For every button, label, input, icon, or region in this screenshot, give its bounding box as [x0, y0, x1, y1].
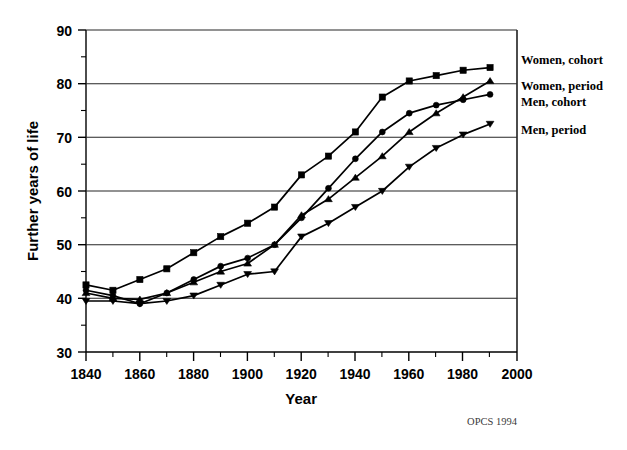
legend-item-men-cohort[interactable]: Men, cohort	[521, 95, 587, 109]
data-point	[191, 277, 197, 283]
y-tick-label-70: 70	[56, 130, 72, 146]
series-women-cohort	[83, 64, 493, 293]
data-point	[460, 67, 466, 73]
data-point	[325, 221, 333, 227]
chart-legend: Women, cohortWomen, periodMen, cohortMen…	[521, 53, 604, 137]
data-point	[406, 78, 412, 84]
data-point	[191, 250, 197, 256]
data-point	[298, 172, 304, 178]
chart-figure: 90 80 70 60 50 40 30	[0, 0, 627, 450]
data-point	[379, 129, 385, 135]
data-point	[271, 204, 277, 210]
series-line	[86, 94, 490, 303]
data-point	[325, 185, 331, 191]
data-series-layer	[82, 64, 494, 307]
series-line	[86, 68, 490, 291]
y-tick-label-90: 90	[56, 23, 72, 39]
y-tick-label-80: 80	[56, 76, 72, 92]
data-point	[487, 91, 493, 97]
data-point	[218, 234, 224, 240]
x-tick-label-1920: 1920	[286, 366, 317, 382]
x-axis-title: Year	[285, 390, 317, 407]
data-point	[486, 78, 494, 84]
data-point	[379, 94, 385, 100]
data-point	[137, 276, 143, 282]
legend-label: Men, cohort	[521, 95, 587, 109]
series-men-cohort	[83, 91, 493, 306]
y-axis-title: Further years of life	[24, 121, 41, 261]
data-point	[433, 73, 439, 79]
x-tick-label-1880: 1880	[178, 366, 209, 382]
data-point	[245, 220, 251, 226]
data-point	[460, 97, 466, 103]
legend-item-women-cohort[interactable]: Women, cohort	[521, 53, 604, 67]
data-point	[164, 290, 170, 296]
series-men-period	[82, 121, 494, 307]
data-point	[83, 287, 89, 293]
data-point	[245, 255, 251, 261]
data-point	[433, 102, 439, 108]
x-tick-label-1900: 1900	[232, 366, 263, 382]
legend-label: Men, period	[521, 123, 586, 137]
data-point	[299, 215, 305, 221]
data-point	[110, 293, 116, 299]
x-axis-ticks	[86, 352, 517, 361]
horizontal-gridlines	[86, 30, 517, 298]
x-tick-label-2000: 2000	[501, 366, 532, 382]
data-point	[406, 110, 412, 116]
data-point	[218, 263, 224, 269]
y-axis-ticks	[78, 30, 86, 352]
y-axis-tick-labels: 90 80 70 60 50 40 30	[56, 23, 72, 361]
y-tick-label-40: 40	[56, 291, 72, 307]
x-tick-label-1940: 1940	[339, 366, 370, 382]
legend-item-men-period[interactable]: Men, period	[521, 123, 586, 137]
data-point	[325, 153, 331, 159]
legend-item-women-period[interactable]: Women, period	[521, 79, 603, 93]
x-tick-label-1960: 1960	[393, 366, 424, 382]
data-point	[272, 242, 278, 248]
legend-label: Women, period	[521, 79, 603, 93]
life-expectancy-line-chart: 90 80 70 60 50 40 30	[0, 0, 627, 450]
data-point	[164, 266, 170, 272]
y-tick-label-30: 30	[56, 345, 72, 361]
x-tick-label-1980: 1980	[447, 366, 478, 382]
legend-label: Women, cohort	[521, 53, 604, 67]
source-credit: OPCS 1994	[467, 416, 518, 427]
data-point	[352, 129, 358, 135]
data-point	[487, 64, 493, 70]
y-tick-label-60: 60	[56, 184, 72, 200]
x-tick-label-1840: 1840	[70, 366, 101, 382]
x-tick-label-1860: 1860	[124, 366, 155, 382]
x-axis-tick-labels: 1840 1860 1880 1900 1920 1940 1960 1980 …	[70, 366, 532, 382]
data-point	[352, 156, 358, 162]
y-tick-label-50: 50	[56, 237, 72, 253]
